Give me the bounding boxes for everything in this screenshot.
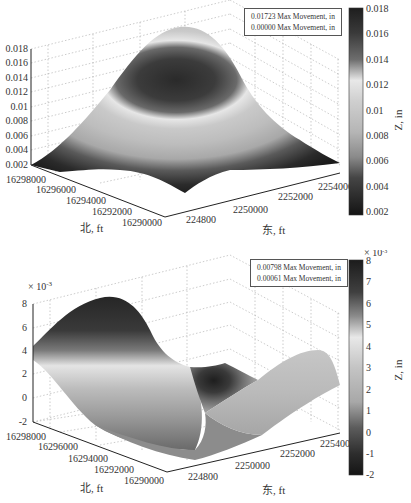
top-x-ticks: 224800 2250000 2252000 2254000 — [186, 181, 353, 225]
svg-text:2252000: 2252000 — [280, 448, 315, 459]
top-z-ticks: 0.018 0.016 0.014 0.012 0.01 0.008 0.006… — [6, 43, 29, 170]
svg-text:224800: 224800 — [186, 214, 216, 225]
svg-text:8: 8 — [366, 255, 371, 266]
bottom-x-axis-label: 东, ft — [262, 484, 285, 496]
top-x-axis-label: 东, ft — [262, 224, 285, 236]
top-y-ticks: 16298000 16296000 16294000 16292000 1629… — [6, 174, 162, 228]
bottom-colorbar-ticks: 8 7 6 5 4 3 2 1 0 -1 -2 — [366, 255, 374, 480]
svg-text:224800: 224800 — [188, 471, 218, 482]
svg-text:16294000: 16294000 — [66, 195, 106, 206]
top-colorbar-label: Z, in — [392, 109, 404, 130]
svg-text:2: 2 — [22, 368, 27, 379]
svg-text:0: 0 — [366, 427, 371, 438]
bottom-plot-canvas: × 10-3 8 6 4 2 0 -2 16298000 16296000 16… — [0, 250, 411, 503]
svg-text:16296000: 16296000 — [38, 441, 78, 452]
svg-text:0.002: 0.002 — [366, 206, 389, 217]
svg-text:16290000: 16290000 — [122, 217, 162, 228]
svg-text:0.018: 0.018 — [366, 3, 389, 14]
svg-text:1: 1 — [366, 405, 371, 416]
bottom-legend-entry-max: 0.00798 Max Movement, in — [257, 262, 341, 273]
svg-text:0.004: 0.004 — [366, 181, 389, 192]
svg-text:16294000: 16294000 — [68, 453, 108, 464]
svg-text:0.01: 0.01 — [366, 105, 384, 116]
bottom-colorbar-label: Z, in — [392, 359, 404, 380]
bottom-legend: 0.00798 Max Movement, in 0.00061 Max Mov… — [250, 259, 348, 287]
bottom-surface-ridge — [33, 297, 202, 450]
svg-text:0.002: 0.002 — [6, 159, 29, 170]
bottom-legend-entry-min: 0.00061 Max Movement, in — [257, 273, 341, 284]
top-colorbar — [349, 8, 363, 215]
svg-text:0.008: 0.008 — [366, 130, 389, 141]
svg-text:16292000: 16292000 — [92, 206, 132, 217]
svg-text:8: 8 — [22, 298, 27, 309]
bottom-colorbar — [349, 260, 363, 475]
top-surface — [31, 27, 340, 193]
svg-text:0.01: 0.01 — [11, 101, 29, 112]
svg-text:4: 4 — [366, 341, 371, 352]
svg-text:0.014: 0.014 — [366, 54, 389, 65]
svg-text:16292000: 16292000 — [94, 464, 134, 475]
svg-text:0.012: 0.012 — [366, 79, 389, 90]
svg-text:0.008: 0.008 — [6, 115, 29, 126]
top-surface-plot: 0.018 0.016 0.014 0.012 0.01 0.008 0.006… — [0, 0, 411, 250]
svg-text:2252000: 2252000 — [278, 191, 313, 202]
svg-text:-1: -1 — [366, 448, 374, 459]
svg-text:4: 4 — [22, 345, 27, 356]
bottom-z-ticks: 8 6 4 2 0 -2 — [19, 298, 27, 427]
svg-text:16290000: 16290000 — [124, 475, 164, 486]
top-legend-entry-max: 0.01723 Max Movement, in — [251, 11, 335, 22]
svg-text:0.012: 0.012 — [6, 86, 29, 97]
svg-text:2250000: 2250000 — [233, 204, 268, 215]
top-legend: 0.01723 Max Movement, in 0.00000 Max Mov… — [244, 8, 342, 36]
svg-text:2: 2 — [366, 384, 371, 395]
svg-text:0.006: 0.006 — [366, 155, 389, 166]
svg-text:6: 6 — [22, 322, 27, 333]
svg-text:0.014: 0.014 — [6, 72, 29, 83]
bottom-surface-plot: × 10-3 8 6 4 2 0 -2 16298000 16296000 16… — [0, 250, 411, 503]
top-y-axis-label: 北, ft — [80, 222, 103, 234]
top-legend-entry-min: 0.00000 Max Movement, in — [251, 22, 335, 33]
svg-text:16296000: 16296000 — [36, 184, 76, 195]
svg-text:0: 0 — [22, 392, 27, 403]
svg-text:5: 5 — [366, 319, 371, 330]
svg-text:3: 3 — [366, 362, 371, 373]
bottom-z-multiplier: × 10-3 — [28, 280, 52, 292]
top-plot-canvas: 0.018 0.016 0.014 0.012 0.01 0.008 0.006… — [0, 0, 411, 250]
svg-text:-2: -2 — [19, 416, 27, 427]
svg-text:0.016: 0.016 — [366, 28, 389, 39]
svg-text:0.016: 0.016 — [6, 57, 29, 68]
svg-text:6: 6 — [366, 298, 371, 309]
svg-text:0.006: 0.006 — [6, 130, 29, 141]
top-colorbar-ticks: 0.018 0.016 0.014 0.012 0.01 0.008 0.006… — [366, 3, 389, 217]
svg-text:2254000: 2254000 — [318, 181, 353, 192]
svg-text:0.018: 0.018 — [6, 43, 29, 54]
svg-text:7: 7 — [366, 276, 371, 287]
svg-text:2250000: 2250000 — [235, 460, 270, 471]
bottom-y-axis-label: 北, ft — [80, 482, 103, 494]
svg-text:-2: -2 — [366, 469, 374, 480]
svg-text:0.004: 0.004 — [6, 144, 29, 155]
